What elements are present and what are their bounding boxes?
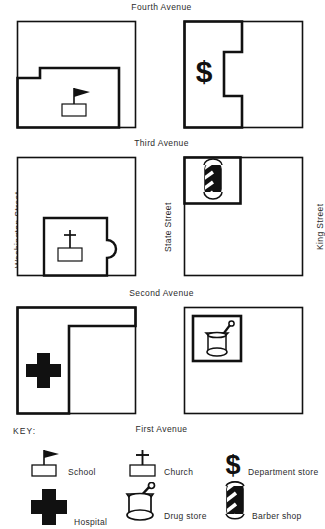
block-drug-store[interactable] <box>183 306 307 418</box>
dollar-sign-icon: $ <box>196 55 213 88</box>
block-department-store[interactable]: $ <box>183 20 307 132</box>
legend-item-church[interactable]: Church <box>128 448 193 478</box>
svg-text:$: $ <box>225 450 240 478</box>
legend-item-barber-shop[interactable]: Barber shop <box>222 480 302 522</box>
school-flag-icon <box>30 448 64 478</box>
avenue-label-third: Third Avenue <box>0 138 323 148</box>
key-title: KEY: <box>13 426 36 436</box>
legend-label-barber-shop: Barber shop <box>252 511 302 522</box>
legend-item-drug-store[interactable]: Drug store <box>122 482 207 522</box>
block-outline <box>18 308 136 414</box>
legend-label-church: Church <box>164 467 193 478</box>
avenue-label-first: First Avenue <box>0 424 323 434</box>
church-cross-icon <box>128 448 160 478</box>
street-label-king: King Street <box>315 204 325 250</box>
block-church[interactable] <box>16 156 140 280</box>
legend-item-hospital[interactable]: Hospital <box>28 486 107 528</box>
legend-label-department-store: Department store <box>248 467 318 478</box>
dollar-sign-icon: $ <box>222 450 244 478</box>
map-legend: School Church $ Department store Hospit <box>0 446 323 529</box>
legend-label-hospital: Hospital <box>74 517 107 528</box>
avenue-label-fourth: Fourth Avenue <box>0 2 323 12</box>
legend-item-department-store[interactable]: $ Department store <box>222 450 318 478</box>
barber-pole-icon <box>222 480 248 522</box>
legend-label-school: School <box>68 467 96 478</box>
block-hospital[interactable] <box>16 306 140 418</box>
block-barber-shop[interactable] <box>183 156 307 280</box>
legend-label-drug-store: Drug store <box>164 511 207 522</box>
hospital-cross-icon <box>28 486 70 528</box>
avenue-label-second: Second Avenue <box>0 288 323 298</box>
street-label-state: State Street <box>163 202 173 252</box>
legend-item-school[interactable]: School <box>30 448 96 478</box>
mortar-pestle-icon <box>122 482 160 522</box>
church-lot-outline <box>44 218 116 276</box>
block-school[interactable] <box>16 20 140 132</box>
